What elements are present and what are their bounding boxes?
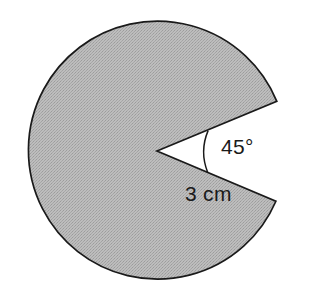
angle-arc-icon	[204, 131, 208, 173]
sector-diagram-canvas	[0, 0, 312, 297]
geometry-figure: 45° 3 cm	[0, 0, 312, 297]
radius-measure-label: 3 cm	[185, 183, 232, 204]
angle-measure-label: 45°	[221, 136, 254, 157]
